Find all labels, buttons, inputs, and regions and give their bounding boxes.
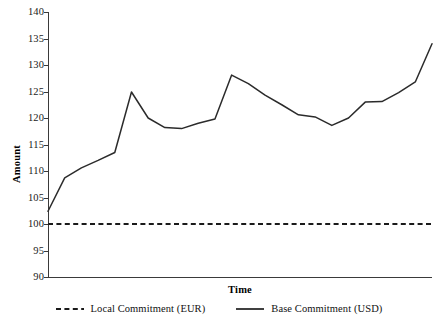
legend-label: Base Commitment (USD)	[271, 303, 382, 314]
line-chart: 140 135 130 125 120 115 110 105 100 95 9…	[0, 0, 437, 327]
solid-line-icon	[235, 304, 265, 314]
legend-item-local-commitment: Local Commitment (EUR)	[55, 303, 206, 314]
dashed-line-icon	[55, 304, 85, 314]
legend-label: Local Commitment (EUR)	[91, 303, 206, 314]
chart-legend: Local Commitment (EUR) Base Commitment (…	[0, 303, 437, 314]
series-canvas	[0, 0, 437, 327]
legend-item-base-commitment: Base Commitment (USD)	[235, 303, 382, 314]
series-base-commitment-usd	[48, 44, 432, 211]
